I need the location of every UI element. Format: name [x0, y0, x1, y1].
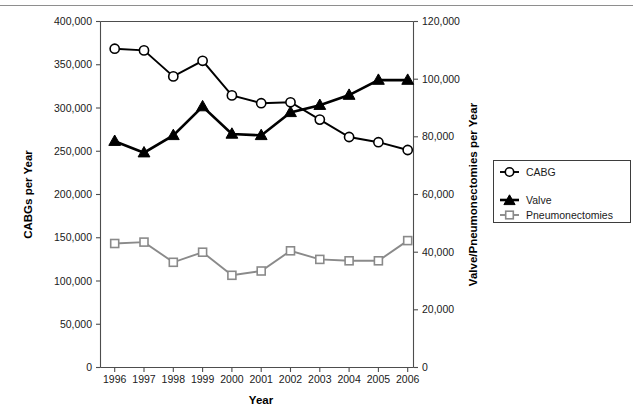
data-point-marker — [111, 240, 119, 248]
x-tick-label: 1999 — [191, 373, 215, 385]
legend-label-cabg: CABG — [526, 166, 556, 178]
chart-figure: 0 50,000 100,000 150,000 200,000 250,000… — [0, 0, 633, 420]
series-valve — [109, 74, 414, 157]
x-tick-label: 2000 — [220, 373, 244, 385]
right-tick-label: 20,000 — [422, 303, 454, 315]
right-axis-title: Valve/Pneumonectomies per Year — [467, 102, 479, 286]
left-tick-label: 50,000 — [60, 318, 92, 330]
data-point-marker — [140, 238, 148, 246]
chart-legend: CABG Valve Pneumonectomies — [494, 161, 631, 223]
data-point-marker — [227, 91, 236, 100]
left-axis-tick-labels: 0 50,000 100,000 150,000 200,000 250,000… — [54, 15, 92, 373]
open-circle-icon — [505, 168, 513, 176]
right-axis-tick-labels: 0 20,000 40,000 60,000 80,000 100,000 12… — [422, 15, 460, 373]
x-axis-tick-labels: 1996 1997 1998 1999 2000 2001 2002 2003 … — [103, 373, 420, 385]
data-point-marker — [374, 138, 383, 147]
data-point-marker — [287, 247, 295, 255]
left-tick-label: 350,000 — [54, 58, 92, 70]
left-tick-label: 200,000 — [54, 188, 92, 200]
left-axis-ticks — [96, 22, 101, 368]
right-tick-label: 0 — [422, 361, 428, 373]
open-square-icon — [506, 211, 514, 219]
legend-label-pneumonectomies: Pneumonectomies — [526, 209, 613, 221]
data-point-marker — [199, 248, 207, 256]
data-point-marker — [315, 115, 324, 124]
left-axis-title: CABGs per Year — [22, 150, 34, 239]
x-tick-label: 2002 — [279, 373, 303, 385]
data-point-marker — [169, 72, 178, 81]
data-point-marker — [345, 257, 353, 265]
data-point-marker — [139, 46, 148, 55]
data-point-marker — [257, 267, 265, 275]
data-point-marker — [109, 135, 121, 145]
x-tick-label: 2001 — [250, 373, 274, 385]
x-tick-label: 1996 — [103, 373, 127, 385]
data-point-marker — [110, 44, 119, 53]
left-tick-label: 100,000 — [54, 275, 92, 287]
data-point-marker — [257, 99, 266, 108]
data-point-marker — [169, 258, 177, 266]
data-point-marker — [404, 237, 412, 245]
data-point-marker — [286, 98, 295, 107]
left-tick-label: 0 — [86, 361, 92, 373]
right-tick-label: 40,000 — [422, 246, 454, 258]
x-tick-label: 1998 — [162, 373, 186, 385]
right-tick-label: 80,000 — [422, 130, 454, 142]
right-tick-label: 60,000 — [422, 188, 454, 200]
legend-item-cabg[interactable]: CABG — [500, 166, 556, 178]
left-tick-label: 300,000 — [54, 102, 92, 114]
x-tick-label: 2006 — [396, 373, 420, 385]
x-axis-ticks — [115, 368, 408, 373]
chart-canvas: 0 50,000 100,000 150,000 200,000 250,000… — [0, 0, 633, 420]
data-point-marker — [198, 56, 207, 65]
legend-label-valve: Valve — [526, 194, 552, 206]
left-tick-label: 250,000 — [54, 145, 92, 157]
x-tick-label: 2005 — [367, 373, 391, 385]
data-point-marker — [228, 271, 236, 279]
data-point-marker — [374, 257, 382, 265]
right-tick-label: 120,000 — [422, 15, 460, 27]
right-tick-label: 100,000 — [422, 73, 460, 85]
right-axis-ticks — [414, 22, 419, 368]
data-point-marker — [403, 145, 412, 154]
x-tick-label: 1997 — [132, 373, 156, 385]
data-point-marker — [345, 132, 354, 141]
left-tick-label: 150,000 — [54, 231, 92, 243]
x-axis-title: Year — [249, 394, 274, 406]
data-point-marker — [316, 255, 324, 263]
x-tick-label: 2003 — [308, 373, 332, 385]
series-pneumonectomies — [111, 237, 412, 280]
data-point-marker — [197, 100, 209, 110]
x-tick-label: 2004 — [337, 373, 361, 385]
left-tick-label: 400,000 — [54, 15, 92, 27]
